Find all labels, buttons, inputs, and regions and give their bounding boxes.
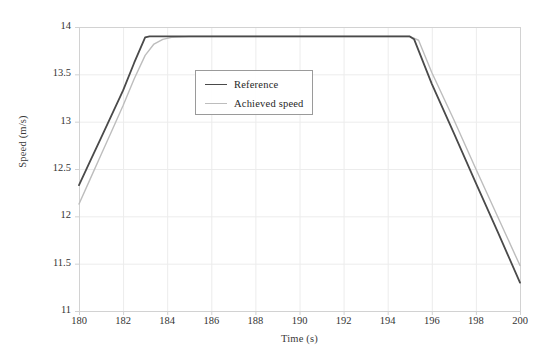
y-tick-label: 11 [31,304,71,315]
y-tick-label: 12.5 [31,162,71,173]
x-tick-label: 200 [500,315,540,326]
x-tick-label: 192 [324,315,364,326]
speed-vs-time-chart: Speed (m/s) Time (s) 1111.51212.51313.51… [0,0,547,360]
x-tick-label: 182 [103,315,143,326]
x-tick-label: 180 [59,315,99,326]
legend-swatch-achieved-speed [205,103,227,104]
x-tick-label: 188 [235,315,275,326]
y-tick-label: 11.5 [31,257,71,268]
x-tick-label: 184 [147,315,187,326]
chart-legend: Reference Achieved speed [195,70,313,115]
x-tick-label: 198 [456,315,496,326]
y-tick-label: 14 [31,20,71,31]
x-tick-label: 190 [280,315,320,326]
y-tick-label: 13.5 [31,67,71,78]
chart-canvas [0,0,547,360]
x-tick-label: 196 [412,315,452,326]
legend-swatch-reference [205,84,227,85]
y-tick-label: 12 [31,209,71,220]
y-tick-label: 13 [31,115,71,126]
legend-item-achieved-speed: Achieved speed [205,96,304,110]
x-tick-label: 194 [368,315,408,326]
x-tick-label: 186 [191,315,231,326]
y-axis-label: Speed (m/s) [17,87,28,197]
legend-label-achieved-speed: Achieved speed [234,98,304,109]
legend-label-reference: Reference [234,79,278,90]
x-axis-label: Time (s) [79,333,520,344]
legend-item-reference: Reference [205,77,278,91]
